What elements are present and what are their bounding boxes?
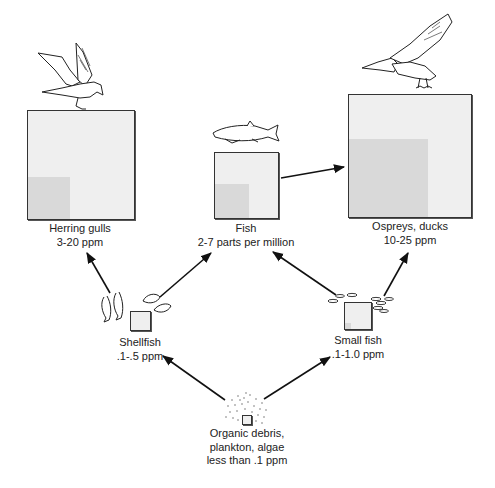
arrow-fish-to-ospreys — [281, 167, 344, 178]
plankton-label: Organic debris, plankton, algae less tha… — [207, 427, 288, 468]
ospreys-value: 10-25 ppm — [372, 234, 448, 248]
herring-gulls-value: 3-20 ppm — [49, 236, 111, 250]
arrow-shellfish-to-fish — [160, 253, 211, 297]
small-fish-box — [344, 302, 372, 330]
small-fish-value: .1-1.0 ppm — [332, 348, 385, 362]
plankton-value: less than .1 ppm — [207, 454, 288, 468]
ospreys-box-inner — [349, 139, 428, 217]
arrow-shellfish-to-gulls — [87, 253, 110, 293]
arrow-plankton-to-shellfish — [163, 356, 225, 400]
shellfish-name: Shellfish — [117, 336, 163, 350]
plankton-box — [242, 415, 252, 425]
gull-icon — [38, 43, 103, 109]
ospreys-label: Ospreys, ducks 10-25 ppm — [372, 220, 448, 247]
fish-box — [214, 152, 279, 219]
plankton-name: Organic debris, — [207, 427, 288, 441]
herring-gulls-box — [27, 110, 135, 220]
herring-gulls-name: Herring gulls — [49, 222, 111, 236]
small-fish-box-inner — [345, 323, 351, 329]
shellfish-value: .1-.5 ppm — [117, 350, 163, 364]
fish-icon — [213, 121, 279, 143]
ospreys-box — [348, 94, 472, 218]
fish-value: 2-7 parts per million — [198, 236, 295, 250]
small-fish-label: Small fish .1-1.0 ppm — [332, 334, 385, 361]
shellfish-box — [130, 311, 151, 331]
fish-box-inner — [215, 184, 249, 218]
herring-gulls-label: Herring gulls 3-20 ppm — [49, 222, 111, 249]
osprey-icon — [362, 14, 452, 88]
fish-label: Fish 2-7 parts per million — [198, 222, 295, 249]
arrow-small-fish-to-fish — [273, 252, 336, 295]
small-fish-name: Small fish — [332, 334, 385, 348]
ospreys-name: Ospreys, ducks — [372, 220, 448, 234]
arrow-small-fish-to-ospreys — [384, 253, 408, 296]
fish-name: Fish — [198, 222, 295, 236]
arrow-plankton-to-small-fish — [264, 357, 330, 399]
plankton-name-2: plankton, algae — [207, 441, 288, 455]
herring-gulls-box-inner — [28, 177, 70, 219]
shellfish-label: Shellfish .1-.5 ppm — [117, 336, 163, 363]
